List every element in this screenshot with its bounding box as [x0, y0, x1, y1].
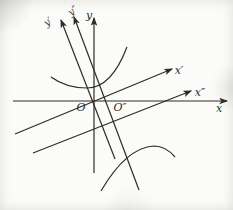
origin-double-prime-label: O″ [113, 102, 126, 113]
x-double-prime-axis-line [33, 91, 191, 153]
rotated-axes-hyperbola-diagram: y″ y′ y x′ x″ x O O″ [0, 0, 233, 210]
x-prime-axis-label: x′ [175, 65, 184, 76]
x-double-prime-axis-label: x″ [195, 87, 205, 98]
origin-label: O [76, 102, 85, 113]
x-axis-label: x [216, 103, 222, 114]
y-axis-label: y [86, 10, 92, 21]
upper-hyperbola-branch [51, 47, 127, 88]
y-prime-axis-line [61, 20, 115, 159]
